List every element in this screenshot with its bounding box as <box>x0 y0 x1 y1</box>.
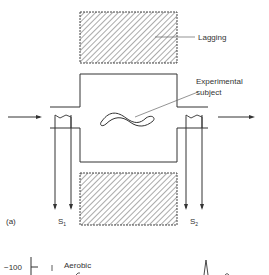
subject-leader <box>135 92 198 117</box>
lagging-label: Lagging <box>198 33 226 42</box>
outlet-arrowhead-icon <box>249 115 255 119</box>
sensor-s2 <box>184 115 204 210</box>
lagging-top <box>80 12 177 63</box>
sensor-s1 <box>53 115 73 210</box>
inlet-arrowhead-icon <box>36 115 42 119</box>
lagging-bottom <box>80 173 177 225</box>
aerobic-label: Aerobic <box>64 261 91 270</box>
sensor-s2-label: S2 <box>190 217 198 227</box>
calorimeter-diagram: Lagging Experimental subject (a) S1 S2 −… <box>0 0 269 275</box>
subject-label-line2: subject <box>196 88 222 97</box>
panel-label: (a) <box>6 217 16 226</box>
chamber-outline <box>50 74 208 107</box>
chamber-outline-bottom <box>50 128 208 162</box>
sensor-s1-label: S1 <box>58 217 66 227</box>
lower-panel: −100 Aerobic <box>4 257 229 275</box>
subject-label-line1: Experimental <box>196 77 243 86</box>
y-tick-label: −100 <box>4 263 23 272</box>
experimental-subject-icon <box>101 113 154 126</box>
